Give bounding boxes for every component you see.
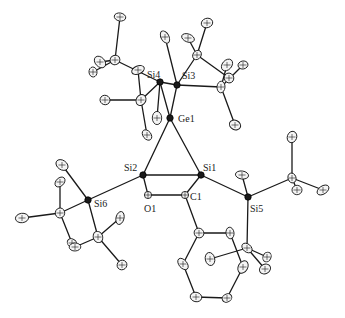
atom-d2m3 bbox=[69, 243, 81, 251]
atom-b2m3 bbox=[228, 118, 242, 131]
atom-ge1 bbox=[167, 115, 173, 121]
bond-b2-b2m3 bbox=[221, 87, 235, 125]
ortep-figure: Si4 Si3 Ge1 Si2 Si1 O1 C1 Si6 Si5 bbox=[0, 0, 345, 318]
atom-a2m2 bbox=[99, 94, 111, 106]
atom-a3 bbox=[152, 111, 162, 124]
label-si2: Si2 bbox=[124, 162, 137, 173]
atom-a1m3 bbox=[88, 67, 97, 78]
label-si1: Si1 bbox=[203, 162, 216, 173]
label-si6: Si6 bbox=[94, 198, 107, 209]
atom-b1m2 bbox=[180, 32, 195, 44]
atom-c1 bbox=[181, 191, 188, 198]
molecule-diagram: Si4 Si3 Ge1 Si2 Si1 O1 C1 Si6 Si5 bbox=[0, 0, 345, 318]
atom-a1m1 bbox=[114, 12, 127, 22]
bond-si3-b2 bbox=[177, 85, 221, 87]
label-ge1: Ge1 bbox=[178, 113, 195, 124]
bond-ge1-si2 bbox=[143, 118, 170, 175]
atom-p3 bbox=[236, 259, 251, 275]
atom-e1m1 bbox=[286, 130, 299, 144]
bond-p6-p1 bbox=[183, 233, 199, 264]
atom-e2m1 bbox=[204, 252, 216, 267]
label-o1: O1 bbox=[144, 203, 156, 214]
label-si5: Si5 bbox=[250, 203, 263, 214]
atom-p4 bbox=[221, 292, 233, 303]
bond-si3-b3 bbox=[165, 37, 177, 85]
atom-p2 bbox=[225, 227, 235, 240]
atom-b2m1 bbox=[219, 57, 235, 73]
atom-p1 bbox=[192, 226, 206, 240]
bond-ge1-si1 bbox=[170, 118, 201, 175]
atom-si3 bbox=[174, 82, 180, 88]
atom-p6 bbox=[176, 256, 191, 271]
atom-e3 bbox=[235, 170, 249, 180]
atom-d3 bbox=[54, 157, 70, 172]
atom-e2m2 bbox=[261, 251, 272, 263]
atom-d1 bbox=[55, 207, 66, 218]
bond-ge1-si3 bbox=[170, 85, 177, 118]
atom-b1m1 bbox=[200, 17, 214, 29]
bond-si2-si6 bbox=[88, 175, 143, 200]
atom-b2 bbox=[217, 81, 226, 93]
bond-si5-e2 bbox=[247, 197, 248, 248]
atoms-layer bbox=[15, 12, 331, 304]
atom-a1 bbox=[108, 54, 121, 67]
label-si3: Si3 bbox=[182, 70, 195, 81]
atom-b1 bbox=[191, 49, 203, 62]
label-si4: Si4 bbox=[147, 69, 160, 80]
atom-e1 bbox=[287, 172, 298, 184]
atom-e1m2 bbox=[315, 183, 330, 197]
atom-o1 bbox=[144, 191, 151, 198]
bond-ge1-si4 bbox=[160, 82, 170, 118]
bond-e2-e2m1 bbox=[210, 248, 247, 259]
atom-si5 bbox=[245, 194, 251, 200]
atom-b3 bbox=[158, 29, 171, 44]
atom-d1m1 bbox=[53, 175, 67, 189]
atom-si6 bbox=[85, 197, 91, 203]
atom-d2m1 bbox=[115, 211, 126, 226]
atom-si2 bbox=[140, 172, 146, 178]
atom-e1m3 bbox=[292, 185, 302, 195]
atom-d1m2 bbox=[15, 213, 29, 224]
label-c1: C1 bbox=[190, 191, 202, 202]
bond-a1-a1m1 bbox=[115, 17, 120, 60]
atom-e2m3 bbox=[258, 262, 273, 276]
bonds-layer bbox=[22, 17, 323, 298]
atom-a2m3 bbox=[140, 128, 153, 142]
atom-p5 bbox=[189, 291, 202, 303]
bond-si5-e1 bbox=[248, 178, 292, 197]
